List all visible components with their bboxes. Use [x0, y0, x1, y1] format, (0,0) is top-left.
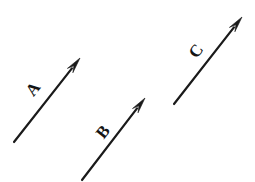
vector-shaft-c	[174, 27, 234, 104]
vector-diagram: A B C	[0, 0, 255, 182]
arrows-group	[14, 17, 242, 180]
vector-shaft-b	[82, 108, 137, 180]
vector-shaft-a	[14, 68, 72, 142]
